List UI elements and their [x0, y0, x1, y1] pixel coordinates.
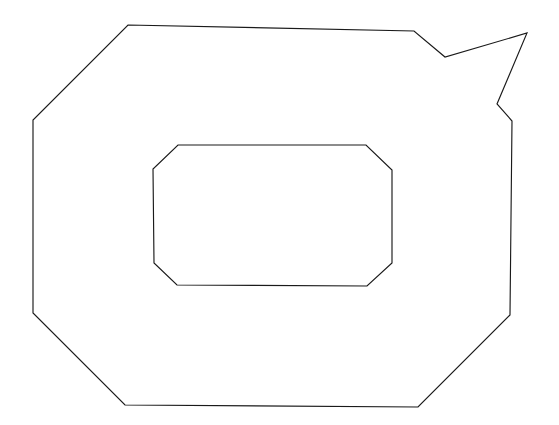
canvas-background — [0, 0, 559, 425]
line-drawing-svg — [0, 0, 559, 425]
drawing-canvas — [0, 0, 559, 425]
